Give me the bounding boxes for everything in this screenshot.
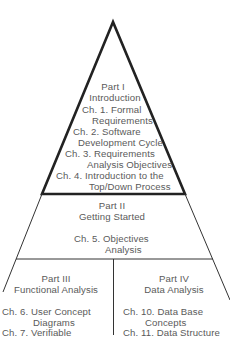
part4-title: Data Analysis [144,284,203,295]
part1-ch3-line2: Analysis Objectives [87,159,172,170]
part2-label: Part II [99,200,125,211]
part2-title: Getting Started [79,211,145,222]
part4-ch11-line1: Ch. 11. Data Structure [123,327,220,338]
left-slope [3,194,42,292]
part2-ch5-line1: Ch. 5. Objectives [74,233,149,244]
part1-ch4-line1: Ch. 4. Introduction to the [56,170,164,181]
part1-ch1-line2: Requirements [92,115,153,126]
part3-label: Part III [41,273,70,284]
part1-ch2-line1: Ch. 2. Software [73,126,141,137]
part1-ch4-line2: Top/Down Process [89,181,171,192]
part4-label: Part IV [159,273,189,284]
part2-ch5-line2: Analysis [105,244,142,255]
part4-ch10-line1: Ch. 10. Data Base [123,306,203,317]
part1-ch3-line1: Ch. 3. Requirements [65,148,155,159]
part1-label: Part I [101,81,125,92]
part3-ch7-line1: Ch. 7. Verifiable [2,327,71,338]
part3-ch6-line1: Ch. 6. User Concept [2,306,91,317]
part1-title: Introduction [89,92,140,103]
part1-ch2-line2: Development Cycle [78,137,163,148]
part1-ch1-line1: Ch. 1. Formal [82,104,141,115]
part3-title: Functional Analysis [14,284,98,295]
